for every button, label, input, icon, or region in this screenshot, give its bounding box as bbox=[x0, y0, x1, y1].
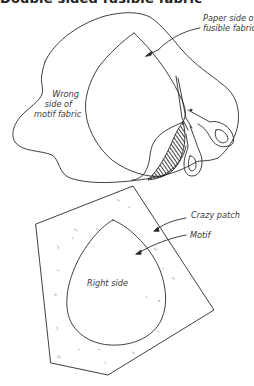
illustration bbox=[0, 0, 254, 386]
fusible-fabric-right-edge bbox=[134, 33, 185, 122]
label-right-side: Right side bbox=[87, 278, 128, 288]
label-paper-side-line1: Paper side of bbox=[203, 13, 254, 23]
label-crazy-patch: Crazy patch bbox=[191, 210, 240, 220]
label-wrong-side-line1: Wrong bbox=[34, 89, 79, 99]
label-wrong-side-line2: side of bbox=[34, 99, 79, 109]
label-wrong-side-line3: motif fabric bbox=[34, 109, 79, 119]
label-paper-side-line2: fusible fabric bbox=[203, 23, 254, 33]
hatched-cut-area bbox=[148, 122, 185, 180]
label-motif: Motif bbox=[190, 230, 210, 240]
label-paper-side: Paper side of fusible fabric bbox=[203, 13, 254, 33]
label-wrong-side: Wrong side of motif fabric bbox=[34, 89, 79, 119]
motif-leader bbox=[140, 235, 186, 252]
